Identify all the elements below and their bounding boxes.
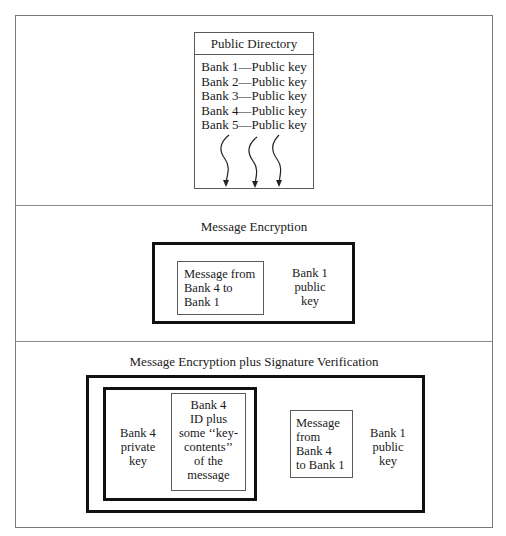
directory-entry: Bank 2—Public key (195, 75, 313, 90)
public-directory-title: Public Directory (195, 33, 313, 55)
public-directory-list: Bank 1—Public key Bank 2—Public key Bank… (195, 60, 313, 133)
directory-entry: Bank 3—Public key (195, 89, 313, 104)
encryption-public-key-label: Bank 1 public key (280, 266, 340, 308)
signature-public-key-label: Bank 1 public key (360, 426, 416, 468)
section-divider-2 (15, 341, 493, 342)
private-key-label: Bank 4 private key (106, 426, 170, 468)
encryption-message-box: Message from Bank 4 to Bank 1 (177, 261, 264, 315)
wavy-down-arrows-icon (205, 133, 305, 188)
signature-title: Message Encryption plus Signature Verifi… (15, 354, 493, 370)
directory-entry: Bank 1—Public key (195, 60, 313, 75)
section-divider-1 (15, 205, 493, 206)
directory-entry: Bank 5—Public key (195, 118, 313, 133)
encryption-title: Message Encryption (15, 219, 493, 235)
signature-message-box: Message from Bank 4 to Bank 1 (290, 410, 353, 478)
directory-entry: Bank 4—Public key (195, 104, 313, 119)
signature-content-box: Bank 4 ID plus some ‘‘key- contents’’ of… (171, 393, 246, 491)
public-directory-box: Public Directory Bank 1—Public key Bank … (194, 32, 314, 189)
